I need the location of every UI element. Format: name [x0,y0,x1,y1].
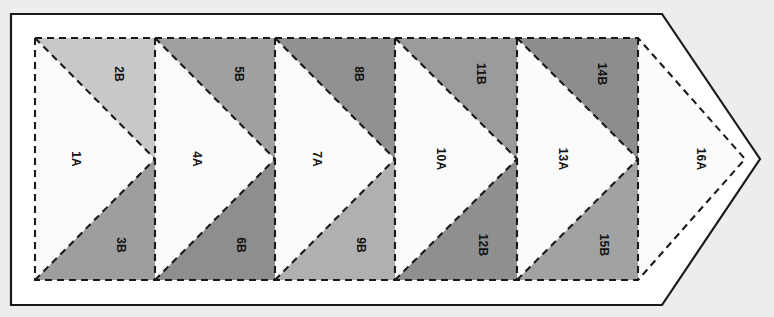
patch-label-11b: 11B [474,63,488,85]
pattern-unit-1: 1A 2B 3B [35,38,155,280]
patch-label-16a: 16A [694,148,708,171]
patch-label-8b: 8B [352,66,366,82]
patch-label-1a: 1A [69,151,83,167]
patch-label-2b: 2B [112,66,126,82]
patch-label-6b: 6B [234,237,248,253]
pattern-diagram-svg: 1A 2B 3B 4A 5B 6B 7A 8B 9B 10A [0,0,774,317]
patch-label-5b: 5B [232,66,246,82]
patch-label-4a: 4A [190,151,204,167]
pattern-unit-5: 13A 14B 15B [517,38,638,280]
patch-label-9b: 9B [354,237,368,253]
patch-label-7a: 7A [310,151,324,167]
pattern-unit-3: 7A 8B 9B [275,38,395,280]
pattern-diagram-canvas: 1A 2B 3B 4A 5B 6B 7A 8B 9B 10A [0,0,774,317]
patch-label-15b: 15B [597,234,611,257]
pattern-unit-2: 4A 5B 6B [155,38,275,280]
patch-label-12b: 12B [476,234,490,257]
pattern-unit-4: 10A 11B 12B [395,38,517,280]
patch-label-3b: 3B [114,237,128,253]
patch-label-13a: 13A [556,148,570,171]
patch-label-14b: 14B [595,63,609,86]
patch-label-10a: 10A [434,148,448,171]
